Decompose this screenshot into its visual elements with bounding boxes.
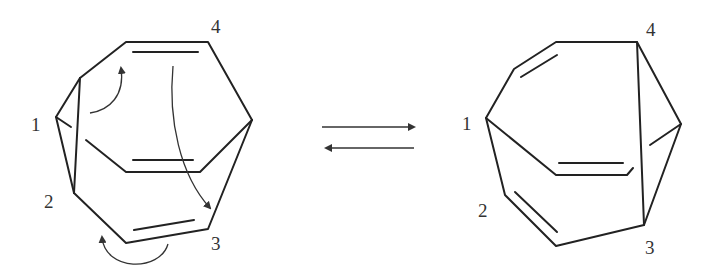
label-1-right: 1 [462,113,472,134]
right-molecule [486,42,681,246]
reaction-diagram: 4 1 2 3 4 1 2 3 [0,0,715,278]
label-2-left: 2 [44,191,54,212]
label-3-left: 3 [211,233,221,254]
label-3-right: 3 [645,237,655,258]
label-4-left: 4 [211,16,221,37]
equilibrium-arrows [322,127,414,148]
label-1-left: 1 [31,114,41,135]
label-4-right: 4 [646,19,656,40]
label-2-right: 2 [478,200,488,221]
left-molecule [56,42,252,243]
curved-arrows [90,66,210,264]
